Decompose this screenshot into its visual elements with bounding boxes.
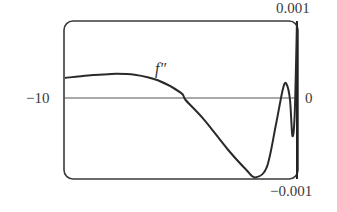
x-max-label: 0 (305, 91, 313, 106)
chart-frame (64, 21, 298, 179)
f-double-prime-curve (65, 21, 297, 177)
y-min-label: −0.001 (270, 184, 312, 199)
y-max-label: 0.001 (276, 1, 310, 16)
x-min-label: −10 (26, 91, 49, 106)
chart-plot-area (0, 0, 337, 212)
curve-label: f″ (155, 60, 166, 78)
